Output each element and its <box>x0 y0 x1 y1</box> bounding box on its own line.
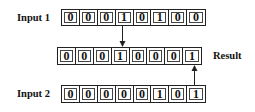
input1-bit-7: 0 <box>187 10 205 25</box>
input2-bit-1: 0 <box>80 86 98 102</box>
input2-bit-0: 0 <box>62 86 80 102</box>
result-bit-4: 0 <box>130 48 148 64</box>
result-bit-5: 0 <box>147 48 165 64</box>
input1-bit-1: 0 <box>80 10 98 25</box>
input1-bit-3: 1 <box>116 10 134 25</box>
input1-register: 0 0 0 1 0 1 0 0 <box>61 9 206 26</box>
input1-bit-0: 0 <box>62 10 80 25</box>
input2-register: 0 0 0 0 0 1 0 1 <box>61 85 206 103</box>
result-label: Result <box>213 50 242 62</box>
input2-bit-5: 1 <box>151 86 169 102</box>
up-arrow-icon <box>192 65 198 85</box>
result-bit-2: 0 <box>94 48 112 64</box>
input2-bit-7: 1 <box>187 86 205 102</box>
input1-label: Input 1 <box>17 12 50 24</box>
input1-bit-2: 0 <box>98 10 116 25</box>
input1-bit-4: 0 <box>134 10 152 25</box>
input2-bit-2: 0 <box>98 86 116 102</box>
result-register: 0 0 0 1 0 0 0 1 <box>57 47 202 65</box>
input1-bit-5: 1 <box>151 10 169 25</box>
result-bit-7: 1 <box>183 48 201 64</box>
input2-bit-6: 0 <box>169 86 187 102</box>
input1-bit-6: 0 <box>169 10 187 25</box>
result-bit-3: 1 <box>112 48 130 64</box>
result-bit-6: 0 <box>165 48 183 64</box>
input2-label: Input 2 <box>17 88 50 100</box>
down-arrow-icon <box>120 26 126 47</box>
input2-bit-4: 0 <box>134 86 152 102</box>
result-bit-1: 0 <box>76 48 94 64</box>
input2-bit-3: 0 <box>116 86 134 102</box>
result-bit-0: 0 <box>58 48 76 64</box>
